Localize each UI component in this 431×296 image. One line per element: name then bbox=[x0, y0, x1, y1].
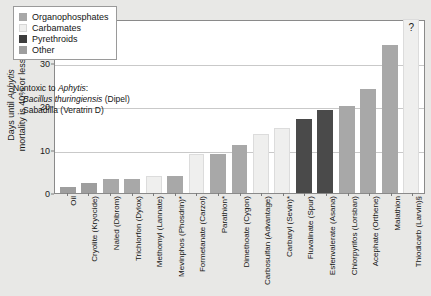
x-axis-tick-cell: Cryolite (Kryocide) bbox=[78, 196, 100, 296]
x-axis-tick-cell: Dimethoate (Cygon) bbox=[229, 196, 251, 296]
x-axis-label: Dimethoate (Cygon) bbox=[240, 196, 248, 268]
x-axis-label: Mevinphos (Phosdrin)* bbox=[175, 196, 183, 277]
legend-swatch-other-icon bbox=[19, 46, 27, 54]
legend-swatch-carbamates-icon bbox=[19, 24, 27, 32]
bar[interactable] bbox=[210, 154, 226, 193]
bar-cell bbox=[250, 21, 271, 193]
x-axis-label: Parathion* bbox=[218, 196, 226, 233]
question-mark-annotation: ? bbox=[408, 22, 414, 33]
bar[interactable] bbox=[403, 19, 419, 193]
bar[interactable] bbox=[339, 106, 355, 193]
x-axis-tick-cell: Formetanate (Carzol) bbox=[186, 196, 208, 296]
legend-item-pyrethroids: Pyrethroids bbox=[19, 33, 109, 44]
x-axis-label: Naled (Dibrom) bbox=[110, 196, 118, 250]
annotation-item-0: Bacillus thuringiensis (Dipel) bbox=[13, 94, 130, 105]
bar-cell bbox=[336, 21, 357, 193]
x-axis-label: Carbaryl (Sevin)* bbox=[283, 196, 291, 257]
legend-item-organophosphates: Organophosphates bbox=[19, 11, 109, 22]
x-axis-tick-cell: Mevinphos (Phosdrin)* bbox=[164, 196, 186, 296]
x-axis-label: Malathion bbox=[391, 196, 399, 231]
x-axis-tick-cell: Fluvalinate (Spur) bbox=[294, 196, 316, 296]
x-axis-label: Oil bbox=[67, 196, 75, 206]
y-tick-30: 30 bbox=[28, 59, 50, 69]
y-tick-10: 10 bbox=[28, 146, 50, 156]
bar[interactable] bbox=[232, 145, 248, 193]
chart-figure: Days until Aphytis mortality is 40% or l… bbox=[0, 0, 431, 296]
bar-cell bbox=[379, 21, 400, 193]
legend-label-other: Other bbox=[32, 45, 55, 55]
x-axis-tick-cell: Carbosulfan (Advantage) bbox=[250, 196, 272, 296]
annotation-heading-colon: : bbox=[86, 83, 88, 93]
bar[interactable] bbox=[274, 128, 290, 193]
chart-legend: OrganophosphatesCarbamatesPyrethroidsOth… bbox=[13, 6, 117, 60]
annotation-heading-species: Aphytis bbox=[58, 83, 86, 93]
bar[interactable] bbox=[146, 176, 162, 193]
x-axis-tick-cell: Trichlorfon (Dylox) bbox=[121, 196, 143, 296]
x-axis-label: Acephate (Orthene) bbox=[369, 196, 377, 266]
legend-label-organophosphates: Organophosphates bbox=[32, 12, 109, 22]
bar[interactable] bbox=[167, 176, 183, 193]
x-axis-tick-cell: Chlorpyrifos (Lorsban) bbox=[337, 196, 359, 296]
x-axis-label: Esfenvalerate (Asana) bbox=[326, 196, 334, 275]
bar-cell bbox=[229, 21, 250, 193]
x-axis-tick-cell: Oil bbox=[56, 196, 78, 296]
annotation-item-0-italic: Bacillus thuringiensis bbox=[23, 94, 102, 104]
x-axis-tick-cell: Thiodicarb (Larvin)§ bbox=[402, 196, 424, 296]
bar[interactable] bbox=[253, 134, 269, 193]
x-axis-labels: OilCryolite (Kryocide)Naled (Dibrom)Tric… bbox=[54, 196, 425, 296]
bar-cell bbox=[358, 21, 379, 193]
legend-label-carbamates: Carbamates bbox=[32, 23, 81, 33]
x-axis-label: Cryolite (Kryocide) bbox=[88, 196, 96, 262]
x-axis-tick-cell: Parathion* bbox=[207, 196, 229, 296]
annotation-heading-text: Nontoxic to bbox=[13, 83, 58, 93]
legend-item-carbamates: Carbamates bbox=[19, 22, 109, 33]
bar-cell: ? bbox=[401, 21, 422, 193]
bar[interactable] bbox=[296, 119, 312, 193]
annotation-item-1-plain: Sabadilla (Veratrin D) bbox=[23, 105, 104, 115]
bar[interactable] bbox=[360, 89, 376, 193]
annotation-item-0-plain: (Dipel) bbox=[102, 94, 129, 104]
x-axis-label: Chlorpyrifos (Lorsban) bbox=[348, 196, 356, 275]
legend-swatch-pyrethroids-icon bbox=[19, 35, 27, 43]
bar-cell bbox=[186, 21, 207, 193]
bar-cell bbox=[272, 21, 293, 193]
bar-cell bbox=[207, 21, 228, 193]
legend-label-pyrethroids: Pyrethroids bbox=[32, 34, 78, 44]
x-axis-tick-cell: Carbaryl (Sevin)* bbox=[272, 196, 294, 296]
bar-cell bbox=[164, 21, 185, 193]
x-axis-label: Thiodicarb (Larvin)§ bbox=[412, 196, 420, 267]
annotation-item-1: Sabadilla (Veratrin D) bbox=[13, 105, 130, 116]
bar[interactable] bbox=[317, 110, 333, 193]
bar[interactable] bbox=[189, 154, 205, 193]
legend-item-other: Other bbox=[19, 44, 109, 55]
x-axis-label: Fluvalinate (Spur) bbox=[304, 196, 312, 259]
bar[interactable] bbox=[382, 45, 398, 193]
x-axis-label: Carbosulfan (Advantage) bbox=[261, 196, 269, 285]
y-tick-0: 0 bbox=[28, 189, 50, 199]
legend-swatch-organophosphates-icon bbox=[19, 13, 27, 21]
x-axis-label: Methomyl (Lannate) bbox=[153, 196, 161, 267]
x-axis-tick-cell: Esfenvalerate (Asana) bbox=[315, 196, 337, 296]
nontoxic-annotation: Nontoxic to Aphytis: Bacillus thuringien… bbox=[13, 83, 130, 116]
x-axis-tick-cell: Methomyl (Lannate) bbox=[142, 196, 164, 296]
bar-cell bbox=[315, 21, 336, 193]
x-axis-label: Trichlorfon (Dylox) bbox=[132, 196, 140, 261]
bar[interactable] bbox=[81, 183, 97, 193]
x-axis-label: Formetanate (Carzol) bbox=[196, 196, 204, 272]
x-axis-tick-cell: Acephate (Orthene) bbox=[358, 196, 380, 296]
bar[interactable] bbox=[103, 179, 119, 193]
x-axis-tick-cell: Naled (Dibrom) bbox=[99, 196, 121, 296]
bar-cell bbox=[143, 21, 164, 193]
bar-cell bbox=[293, 21, 314, 193]
x-axis-tick-cell: Malathion bbox=[380, 196, 402, 296]
annotation-heading: Nontoxic to Aphytis: bbox=[13, 83, 130, 94]
bar[interactable] bbox=[124, 179, 140, 193]
